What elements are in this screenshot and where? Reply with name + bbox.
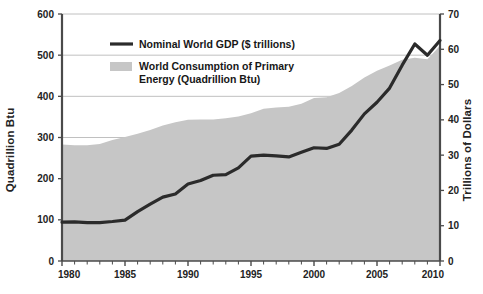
chart-canvas: 0100200300400500600 010203040506070 1980…: [0, 0, 483, 294]
x-axis-tick-label: 2005: [366, 269, 389, 280]
y-axis-tick-label: 200: [37, 173, 54, 184]
x-axis-tick-label: 1985: [114, 269, 137, 280]
x-axis-tick-label: 2010: [422, 269, 445, 280]
y-axis-tick-label: 100: [37, 214, 54, 225]
y2-axis-tick-label: 0: [448, 256, 454, 267]
x-axis-tick-label: 1990: [177, 269, 200, 280]
y-axis-tick-label: 600: [37, 9, 54, 20]
y2-axis-tick-label: 70: [448, 9, 460, 20]
legend-label-energy-line2: Energy (Quadrillion Btu): [139, 73, 260, 85]
legend-label-gdp: Nominal World GDP ($ trillions): [139, 38, 295, 50]
x-axis-tick-label: 2000: [303, 269, 326, 280]
legend-label-energy-line1: World Consumption of Primary: [139, 60, 294, 72]
y2-axis-tick-label: 50: [448, 79, 460, 90]
y-axis-title: Quadrillion Btu: [4, 108, 16, 193]
y-axis-tick-label: 500: [37, 50, 54, 61]
y2-axis-title: Trillions of Dollars: [461, 99, 473, 201]
x-axis-tick-label: 1995: [240, 269, 263, 280]
y2-axis-tick-label: 30: [448, 150, 460, 161]
y-axis-tick-label: 0: [48, 256, 54, 267]
y2-axis-tick-label: 20: [448, 185, 460, 196]
y2-axis-tick-label: 10: [448, 220, 460, 231]
y2-axis-tick-label: 40: [448, 114, 460, 125]
x-axis-tick-label: 1980: [58, 269, 81, 280]
chart-container: 0100200300400500600 010203040506070 1980…: [0, 0, 483, 294]
legend-swatch-marker-icon: [110, 62, 132, 71]
y2-axis-tick-label: 60: [448, 44, 460, 55]
x-axis-tick-labels: 1980198519901995200020052010: [58, 269, 444, 280]
y-axis-tick-label: 400: [37, 91, 54, 102]
y-axis-tick-label: 300: [37, 132, 54, 143]
